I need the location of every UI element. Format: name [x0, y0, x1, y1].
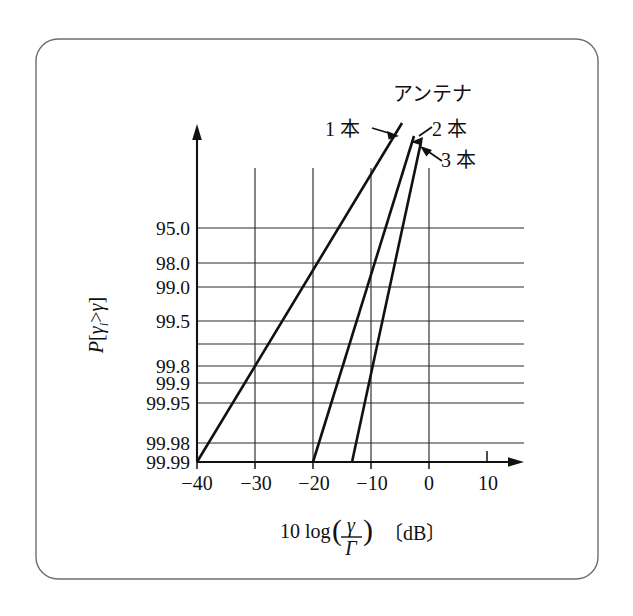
xtick-label-minus30: −30 — [240, 472, 271, 494]
ytick-label-99.99: 99.99 — [146, 452, 190, 473]
grid-horizontal — [197, 228, 524, 443]
annotation-leader-2-antenna — [419, 127, 432, 136]
x-axis — [197, 457, 524, 467]
x-title-paren-open: ( — [332, 513, 342, 547]
annotation-1-antenna: 1 本 — [325, 118, 399, 140]
svg-text:P[γi>γ]: P[γi>γ] — [85, 297, 111, 354]
x-tick-marks — [197, 451, 487, 469]
xtick-label-zero: 0 — [424, 472, 434, 494]
annotation-label-1-antenna: 1 本 — [325, 118, 360, 140]
y-axis — [192, 124, 202, 462]
annotation-label-2-antenna: 2 本 — [432, 118, 467, 140]
x-title-denominator: Γ — [344, 537, 358, 559]
ytick-label-99.0: 99.0 — [156, 277, 190, 298]
y-title-bracket-close: ] — [85, 297, 107, 304]
annotation-arrow-3-antenna — [420, 146, 432, 156]
figure-root: 95.0 98.0 99.0 99.5 99.8 99.9 99.95 99.9… — [0, 0, 633, 616]
x-title-unit: 〔dB〕 — [383, 522, 446, 544]
annotation-2-antenna: 2 本 — [411, 118, 467, 145]
xtick-label-minus20: −20 — [298, 472, 329, 494]
y-title-bracket-open: [ — [85, 334, 107, 341]
x-axis-arrow-icon — [508, 457, 524, 467]
x-title-numerator: γ — [347, 514, 356, 537]
x-tick-labels: −40 −30 −20 −10 0 10 — [181, 472, 498, 494]
ytick-label-99.98: 99.98 — [146, 433, 190, 454]
xtick-label-ten: 10 — [478, 472, 498, 494]
x-axis-title: 10 log ( γ Γ ) 〔dB〕 — [280, 513, 446, 559]
figure-frame — [36, 39, 598, 579]
chart-svg: 95.0 98.0 99.0 99.5 99.8 99.9 99.95 99.9… — [0, 0, 633, 616]
y-axis-title: P[γi>γ] — [85, 297, 111, 354]
y-tick-labels: 95.0 98.0 99.0 99.5 99.8 99.9 99.95 99.9… — [146, 218, 190, 473]
xtick-label-minus40: −40 — [181, 472, 212, 494]
x-title-prefix: 10 log — [280, 520, 331, 543]
series-group — [197, 123, 421, 462]
annotation-label-3-antenna: 3 本 — [441, 149, 476, 171]
ytick-label-99.95: 99.95 — [146, 393, 190, 414]
ytick-label-99.9: 99.9 — [156, 373, 190, 394]
grid-vertical — [197, 168, 429, 462]
annotation-heading-antenna: アンテナ — [393, 83, 472, 105]
y-axis-arrow-icon — [192, 124, 202, 140]
ytick-label-99.5: 99.5 — [156, 311, 190, 332]
ytick-label-95.0: 95.0 — [156, 218, 190, 239]
y-title-P: P — [85, 341, 107, 354]
xtick-label-minus10: −10 — [356, 472, 387, 494]
annotation-3-antenna: 3 本 — [420, 146, 476, 171]
y-title-relation: > — [85, 311, 107, 322]
annotation-heading-group: アンテナ — [393, 83, 472, 105]
x-title-paren-close: ) — [363, 513, 373, 547]
ytick-label-98.0: 98.0 — [156, 253, 190, 274]
